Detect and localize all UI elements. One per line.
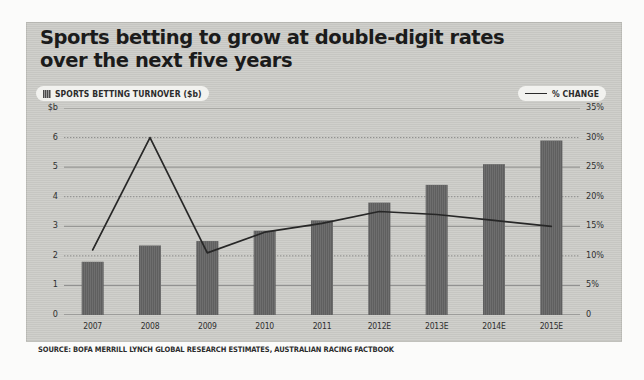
bar-2014E <box>483 164 505 315</box>
x-axis-tick: 2008 <box>122 321 178 331</box>
y-axis-right-tick: 35% <box>586 102 620 112</box>
legend-bar-series: SPORTS BETTING TURNOVER ($b) <box>36 86 209 101</box>
y-axis-right-tick: 20% <box>586 191 620 201</box>
chart-canvas <box>64 108 580 315</box>
chart-title-block: Sports betting to grow at double-digit r… <box>40 26 560 72</box>
y-axis-left-tick: 1 <box>30 279 58 289</box>
y-axis-left-tick: 3 <box>30 220 58 230</box>
y-axis-left-tick: 4 <box>30 191 58 201</box>
y-axis-left-tick: 6 <box>30 132 58 142</box>
y-axis-right-tick: 30% <box>586 132 620 142</box>
plot-area <box>64 108 580 315</box>
x-axis-tick: 2010 <box>237 321 293 331</box>
bar-2015E <box>540 141 562 315</box>
bar-2013E <box>426 185 448 315</box>
line-swatch-icon <box>525 93 547 94</box>
y-axis-left-tick: 0 <box>30 309 58 319</box>
x-axis-tick: 2011 <box>294 321 350 331</box>
legend-bar-label: SPORTS BETTING TURNOVER ($b) <box>55 89 202 99</box>
bar-2010 <box>254 231 276 315</box>
bar-2007 <box>82 262 104 315</box>
y-axis-right-tick: 0 <box>586 309 620 319</box>
y-axis-right-tick: 10% <box>586 250 620 260</box>
y-axis-right-tick: 15% <box>586 220 620 230</box>
bar-2008 <box>139 246 161 315</box>
chart-figure: Sports betting to grow at double-digit r… <box>0 0 644 380</box>
x-axis-tick: 2014E <box>466 321 522 331</box>
x-axis-tick: 2015E <box>523 321 579 331</box>
bar-2012E <box>368 203 390 315</box>
bar-2011 <box>311 220 333 315</box>
bar-swatch-icon <box>43 90 51 98</box>
y-axis-right-tick: 25% <box>586 161 620 171</box>
x-axis-tick: 2012E <box>351 321 407 331</box>
y-axis-right-tick: 5% <box>586 279 620 289</box>
page-title-line-1: Sports betting to grow at double-digit r… <box>40 26 560 49</box>
x-axis-tick: 2009 <box>179 321 235 331</box>
legend-line-label: % CHANGE <box>552 89 599 99</box>
chart-source-note: SOURCE: BOFA MERRILL LYNCH GLOBAL RESEAR… <box>38 345 394 354</box>
x-axis-tick: 2007 <box>65 321 121 331</box>
legend-line-series: % CHANGE <box>518 86 606 101</box>
y-axis-left-tick: 2 <box>30 250 58 260</box>
x-axis-tick: 2013E <box>409 321 465 331</box>
page-title-line-2: over the next five years <box>40 49 560 72</box>
y-axis-left-tick: 5 <box>30 161 58 171</box>
y-axis-left-tick: $b <box>30 102 58 112</box>
